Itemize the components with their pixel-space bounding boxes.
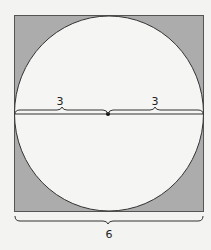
diagram-canvas: 3 3 6 [0,0,211,250]
side-length-label: 6 [106,228,113,241]
side-length-brace [15,216,203,224]
left-radius-label: 3 [57,95,64,108]
right-radius-label: 3 [152,95,159,108]
